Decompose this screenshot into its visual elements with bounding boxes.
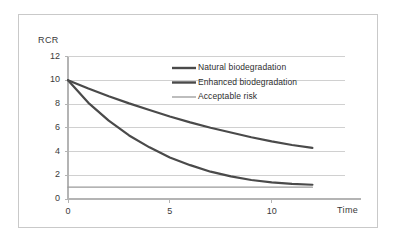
y-axis-tick-label: 6: [44, 122, 60, 132]
x-axis-tick-label: 5: [162, 206, 178, 216]
y-axis-tick-label: 0: [44, 193, 60, 203]
data-series-group: [68, 80, 312, 187]
x-axis-tick-label: 10: [264, 206, 280, 216]
legend-label: Natural biodegradation: [198, 62, 286, 72]
x-axis-tick-label: 0: [60, 206, 76, 216]
y-axis-tick-label: 12: [44, 51, 60, 61]
y-axis-tick-label: 10: [44, 74, 60, 84]
y-axis-tick-label: 4: [44, 146, 60, 156]
legend-label: Enhanced biodegradation: [198, 77, 297, 87]
y-axis-title: RCR: [38, 35, 59, 45]
y-axis-tick-label: 2: [44, 169, 60, 179]
legend-label: Acceptable risk: [198, 91, 257, 101]
series-line: [68, 80, 312, 185]
y-axis-tick-label: 8: [44, 98, 60, 108]
x-axis-title: Time: [337, 205, 358, 215]
series-line: [68, 80, 312, 148]
legend-swatch-group: [172, 68, 196, 97]
